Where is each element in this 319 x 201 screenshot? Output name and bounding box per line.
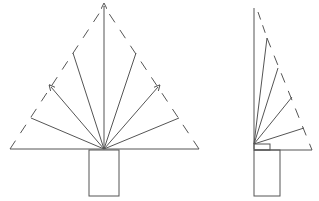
ray-line	[254, 128, 304, 144]
front-view	[10, 6, 199, 196]
ray-line	[254, 68, 278, 144]
trunk-rect	[254, 150, 280, 196]
left-dashed-side	[10, 6, 104, 149]
diagram-canvas	[0, 0, 319, 201]
ray-line	[73, 53, 104, 149]
tree-diagram	[0, 0, 319, 201]
right-dashed-side	[104, 6, 199, 149]
ray-line	[104, 118, 179, 149]
side-view	[254, 8, 312, 196]
ray-line	[254, 97, 292, 144]
trunk-rect	[89, 150, 119, 196]
collar-rect	[254, 144, 270, 150]
dashed-outline	[258, 12, 267, 38]
ray-line	[51, 87, 104, 149]
ray-line	[31, 118, 104, 149]
ray-line	[104, 87, 158, 149]
ray-line	[254, 38, 267, 144]
ray-line	[104, 53, 136, 149]
dashed-outline	[267, 38, 312, 150]
